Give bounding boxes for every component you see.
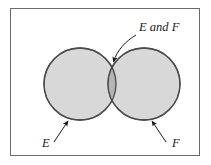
set-label-f: F: [171, 136, 180, 150]
venn-diagram-figure: E and F E F: [0, 0, 211, 165]
venn-diagram-canvas: E and F E F: [0, 0, 211, 165]
set-label-e: E: [41, 136, 50, 150]
intersection-label: E and F: [138, 20, 180, 34]
